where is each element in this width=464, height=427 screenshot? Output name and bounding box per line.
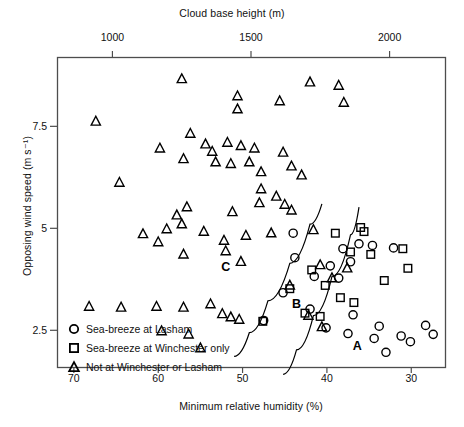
data-point-triangle bbox=[241, 231, 250, 240]
legend-circle bbox=[70, 324, 78, 332]
data-point-triangle bbox=[339, 98, 348, 107]
legend: Sea-breeze at LashamSea-breeze at Winche… bbox=[66, 320, 286, 377]
data-point-triangle bbox=[267, 228, 276, 237]
data-point-circle bbox=[397, 332, 405, 340]
data-point-triangle bbox=[287, 161, 296, 170]
data-point-triangle bbox=[236, 257, 245, 266]
data-point-square bbox=[380, 277, 388, 285]
data-point-triangle bbox=[162, 224, 171, 233]
data-point-triangle bbox=[280, 200, 289, 209]
data-point-square bbox=[337, 294, 345, 302]
data-point-triangle bbox=[257, 184, 266, 193]
data-point-circle bbox=[368, 241, 376, 249]
data-point-triangle bbox=[343, 263, 352, 272]
data-point-circle bbox=[382, 348, 390, 356]
data-point-square bbox=[332, 229, 340, 237]
data-point-triangle bbox=[91, 116, 100, 125]
data-point-circle bbox=[355, 240, 363, 248]
data-point-circle bbox=[429, 330, 437, 338]
legend-square-icon bbox=[66, 340, 82, 356]
legend-item-label: Sea-breeze at Lasham bbox=[86, 323, 192, 335]
data-point-triangle bbox=[155, 143, 164, 152]
legend-item: Sea-breeze at Lasham bbox=[66, 320, 286, 337]
data-point-square bbox=[321, 282, 329, 290]
data-point-triangle bbox=[223, 138, 232, 147]
data-point-triangle bbox=[152, 302, 161, 311]
legend-item: Not at Winchester or Lasham bbox=[66, 358, 286, 375]
data-point-triangle bbox=[218, 309, 227, 318]
legend-item-label: Sea-breeze at Winchester only bbox=[86, 342, 230, 354]
data-point-square bbox=[350, 299, 358, 307]
data-point-triangle bbox=[316, 260, 325, 269]
data-point-circle bbox=[326, 262, 334, 270]
legend-triangle-icon bbox=[66, 359, 82, 375]
legend-triangle bbox=[69, 362, 79, 371]
data-point-square bbox=[367, 251, 375, 259]
data-point-triangle bbox=[272, 191, 281, 200]
data-point-triangle bbox=[279, 147, 288, 156]
data-point-triangle bbox=[275, 96, 284, 105]
data-point-triangle bbox=[206, 299, 215, 308]
data-point-triangle bbox=[115, 178, 124, 187]
legend-item: Sea-breeze at Winchester only bbox=[66, 339, 286, 356]
data-point-circle bbox=[344, 329, 352, 337]
data-point-triangle bbox=[201, 139, 210, 148]
data-point-triangle bbox=[211, 157, 220, 166]
data-point-square bbox=[347, 248, 355, 256]
data-point-circle bbox=[339, 245, 347, 253]
data-point-triangle bbox=[305, 77, 314, 86]
data-point-triangle bbox=[226, 159, 235, 168]
legend-item-label: Not at Winchester or Lasham bbox=[86, 361, 222, 373]
data-point-triangle bbox=[179, 154, 188, 163]
data-point-circle bbox=[406, 338, 414, 346]
legend-square bbox=[70, 343, 78, 351]
data-point-circle bbox=[349, 311, 357, 319]
data-point-triangle bbox=[154, 237, 163, 246]
data-point-triangle bbox=[85, 302, 94, 311]
data-point-triangle bbox=[236, 141, 245, 150]
data-point-circle bbox=[389, 244, 397, 252]
data-point-circle bbox=[289, 229, 297, 237]
data-point-triangle bbox=[182, 202, 191, 211]
data-point-triangle bbox=[138, 229, 147, 238]
data-point-triangle bbox=[250, 143, 259, 152]
data-point-triangle bbox=[177, 74, 186, 83]
data-point-square bbox=[404, 264, 412, 272]
data-point-triangle bbox=[233, 104, 242, 113]
data-point-triangle bbox=[221, 246, 230, 255]
data-point-triangle bbox=[172, 210, 181, 219]
scatter-plot-figure: Cloud base height (m) Minimum relative h… bbox=[0, 0, 464, 427]
data-point-circle bbox=[370, 334, 378, 342]
data-point-triangle bbox=[309, 225, 318, 234]
region-label-c: C bbox=[221, 260, 230, 274]
data-point-triangle bbox=[245, 157, 254, 166]
data-point-triangle bbox=[186, 129, 195, 138]
data-point-circle bbox=[375, 322, 383, 330]
data-point-triangle bbox=[257, 167, 266, 176]
legend-circle-icon bbox=[66, 321, 82, 337]
data-point-square bbox=[399, 245, 407, 253]
data-point-triangle bbox=[219, 235, 228, 244]
data-point-circle bbox=[422, 321, 430, 329]
data-point-triangle bbox=[179, 302, 188, 311]
data-point-triangle bbox=[297, 170, 306, 179]
data-point-triangle bbox=[117, 302, 126, 311]
data-point-triangle bbox=[179, 249, 188, 258]
data-point-triangle bbox=[199, 226, 208, 235]
curve-b-a bbox=[283, 207, 359, 374]
series-triangle bbox=[85, 74, 352, 352]
data-point-triangle bbox=[177, 219, 186, 228]
data-point-triangle bbox=[334, 80, 343, 89]
region-label-a: A bbox=[353, 339, 362, 353]
data-point-triangle bbox=[233, 91, 242, 100]
data-point-triangle bbox=[255, 198, 264, 207]
data-point-triangle bbox=[228, 207, 237, 216]
region-label-b: B bbox=[292, 297, 301, 311]
